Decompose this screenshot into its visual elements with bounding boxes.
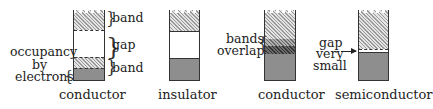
band-gap xyxy=(170,31,199,59)
band-gap xyxy=(74,30,104,58)
brace-icon: { xyxy=(258,37,268,51)
overlap-lower xyxy=(265,46,295,54)
label-band-lower: band xyxy=(112,62,144,74)
label-gap: gap xyxy=(112,39,135,51)
band-bar-insulator xyxy=(169,10,200,81)
upper-band xyxy=(265,10,295,39)
upper-band xyxy=(359,10,388,49)
lower-band-occupied xyxy=(74,68,104,81)
arrow-icon xyxy=(341,51,356,52)
caption-insulator: insulator xyxy=(158,87,217,102)
band-bar-semiconductor xyxy=(358,10,389,81)
caption-semiconductor: semiconductor xyxy=(335,87,433,102)
label-band-upper: band xyxy=(112,12,144,24)
label-small: small xyxy=(313,60,347,72)
brace-icon: { xyxy=(64,69,73,83)
upper-band xyxy=(170,10,199,31)
upper-band xyxy=(74,10,104,30)
band-bar-conductor xyxy=(73,10,105,81)
lower-band-occupied xyxy=(359,52,388,81)
lower-band-occupied xyxy=(265,54,295,81)
band-bar-overlap xyxy=(264,10,296,81)
caption-conductor-overlap: conductor xyxy=(258,87,325,102)
caption-conductor: conductor xyxy=(59,87,126,102)
lower-band-occupied xyxy=(170,58,199,81)
overlap-upper xyxy=(265,39,295,46)
